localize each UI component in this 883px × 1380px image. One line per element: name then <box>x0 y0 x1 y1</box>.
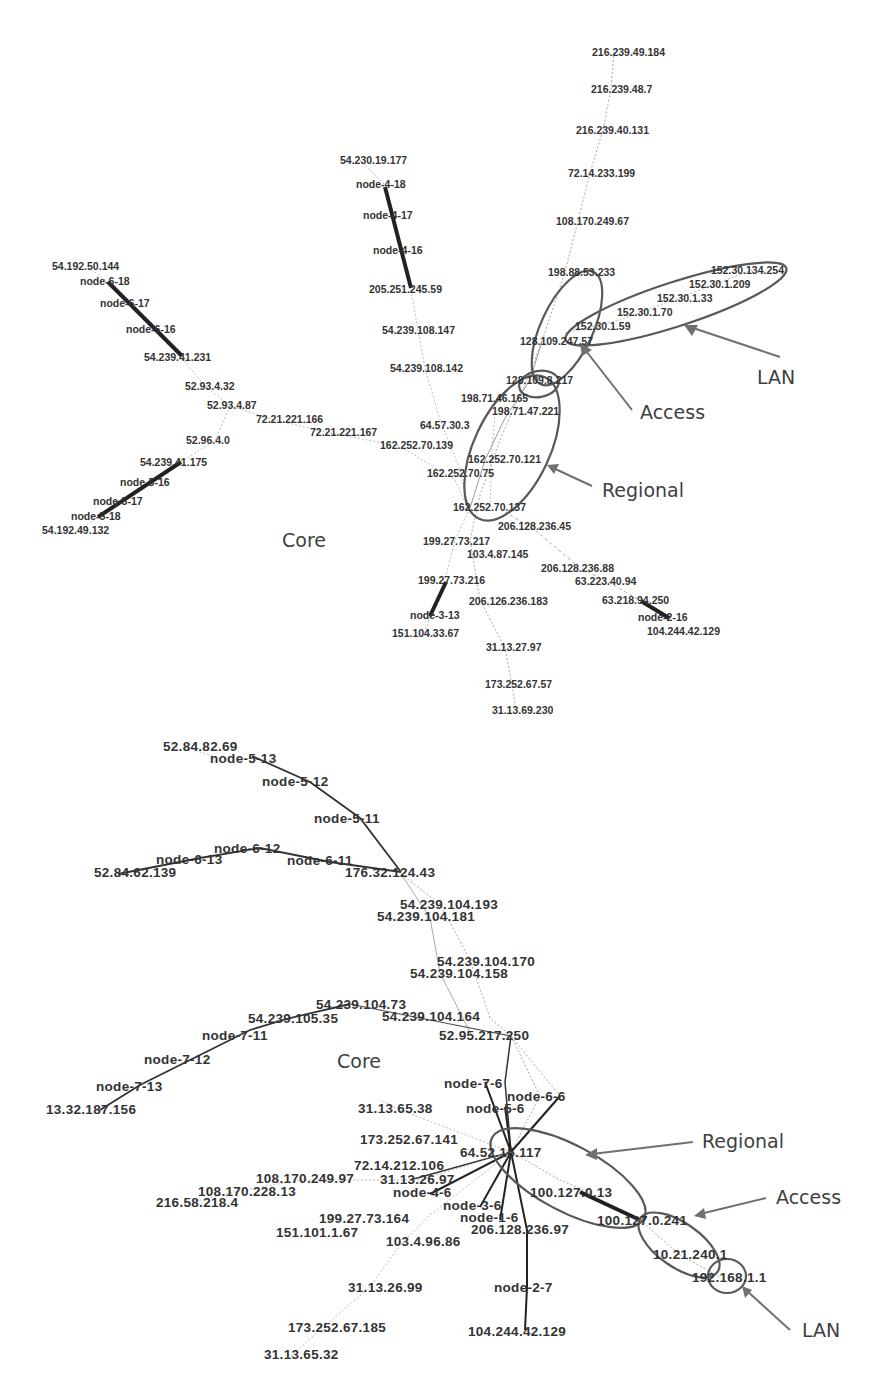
node-label: 198.71.47.221 <box>492 405 559 417</box>
node-label: 216.58.218.4 <box>156 1195 239 1210</box>
node-label: 199.27.73.216 <box>418 574 485 586</box>
node-label: 63.218.94.250 <box>602 594 669 606</box>
node-label: 54.239.105.35 <box>248 1011 338 1026</box>
node-label: 63.223.40.94 <box>575 575 636 587</box>
node-label: node-2-7 <box>494 1280 553 1295</box>
node-label: 31.13.69.230 <box>492 704 553 716</box>
node-label: 13.32.187.156 <box>46 1102 136 1117</box>
node-label: node-5-12 <box>262 774 328 789</box>
node-label: node-6-11 <box>287 853 353 868</box>
node-label: 216.239.40.131 <box>576 124 649 136</box>
node-label: 104.244.42.129 <box>647 625 720 637</box>
node-label: 151.104.33.67 <box>392 627 459 639</box>
node-label: node-4-17 <box>363 209 413 221</box>
node-label: node-7-6 <box>444 1076 503 1091</box>
node-label: 54.239.108.147 <box>382 324 455 336</box>
top-graph-labels: 216.239.49.184216.239.48.7216.239.40.131… <box>42 46 784 716</box>
node-label: 152.30.134.254 <box>711 264 784 276</box>
node-label: 151.101.1.67 <box>276 1225 358 1240</box>
node-label: 52.84.62.139 <box>94 865 176 880</box>
node-label: 128.109.247.57 <box>520 335 593 347</box>
node-label: 31.13.65.32 <box>264 1347 339 1362</box>
node-label: node-5-13 <box>210 751 277 766</box>
node-label: 52.96.4.0 <box>186 434 230 446</box>
node-label: node-5-11 <box>314 811 380 826</box>
node-label: 103.4.96.86 <box>386 1234 461 1249</box>
node-label: 54.239.41.231 <box>144 351 211 363</box>
node-label: node-7-13 <box>96 1079 163 1094</box>
tier-annotation: Regional <box>602 479 684 501</box>
node-label: node-6-17 <box>100 297 150 309</box>
network-topology-diagram: 216.239.49.184216.239.48.7216.239.40.131… <box>0 0 883 1380</box>
node-label: 216.239.49.184 <box>592 46 665 58</box>
node-label: node-6-12 <box>214 841 280 856</box>
tier-annotation: Regional <box>702 1130 784 1152</box>
tier-annotation: Access <box>776 1186 841 1208</box>
node-label: 52.95.217.250 <box>439 1028 529 1043</box>
node-label: 72.14.212.106 <box>354 1158 444 1173</box>
node-label: node-7-12 <box>144 1052 210 1067</box>
node-label: node-4-18 <box>356 178 406 190</box>
node-label: 54.239.104.158 <box>410 966 508 981</box>
node-label: 100.127.0.13 <box>530 1185 613 1200</box>
node-label: 173.252.67.141 <box>360 1132 458 1147</box>
node-label: 54.239.41.175 <box>140 456 207 468</box>
node-label: 54.192.49.132 <box>42 524 109 536</box>
node-label: 192.168.1.1 <box>692 1270 767 1285</box>
node-label: 72.14.233.199 <box>568 167 635 179</box>
bottom-graph-labels: 52.84.82.69node-5-13node-5-12node-5-11no… <box>46 739 767 1362</box>
node-label: 152.30.1.209 <box>689 278 750 290</box>
node-label: 31.13.27.97 <box>486 641 542 653</box>
node-label: 31.13.65.38 <box>358 1101 433 1116</box>
node-label: node-6-16 <box>126 323 176 335</box>
node-label: 64.57.30.3 <box>420 419 470 431</box>
node-label: 52.93.4.87 <box>207 399 257 411</box>
tier-annotation: Access <box>640 401 705 423</box>
node-label: 206.126.236.183 <box>469 595 548 607</box>
node-label: 152.30.1.33 <box>657 292 713 304</box>
tier-annotation: LAN <box>757 366 795 388</box>
tier-annotation: Core <box>337 1050 381 1072</box>
node-label: node-5-18 <box>71 510 121 522</box>
node-label: 152.30.1.70 <box>617 306 673 318</box>
node-label: 173.252.67.185 <box>288 1320 386 1335</box>
node-label: 108.170.249.67 <box>556 215 629 227</box>
node-label: 206.128.236.45 <box>498 520 571 532</box>
node-label: 162.252.70.139 <box>380 439 453 451</box>
node-label: 152.30.1.59 <box>575 320 631 332</box>
node-label: 103.4.87.145 <box>467 548 528 560</box>
node-label: 100.127.0.241 <box>597 1213 687 1228</box>
node-label: node-5-17 <box>93 495 143 507</box>
node-label: node-2-16 <box>638 611 688 623</box>
tier-annotation: LAN <box>802 1319 840 1341</box>
node-label: 162.252.70.137 <box>453 501 526 513</box>
node-label: node-6-18 <box>80 275 130 287</box>
node-label: 216.239.48.7 <box>591 83 652 95</box>
node-label: node-4-16 <box>373 244 423 256</box>
node-label: 64.52.15.117 <box>460 1145 542 1160</box>
node-label: node-5-6 <box>466 1101 525 1116</box>
node-label: 10.21.240.1 <box>653 1247 728 1262</box>
node-label: node-7-11 <box>202 1028 268 1043</box>
node-label: 128.109.8.217 <box>506 374 573 386</box>
node-label: 54.239.108.142 <box>390 362 463 374</box>
node-label: 206.128.236.97 <box>471 1222 569 1237</box>
node-label: 198.88.53.233 <box>548 266 615 278</box>
node-label: node-3-13 <box>410 609 460 621</box>
node-label: 52.93.4.32 <box>185 380 235 392</box>
node-label: 206.128.236.88 <box>541 562 614 574</box>
node-label: 104.244.42.129 <box>468 1324 566 1339</box>
node-label: 72.21.221.166 <box>256 413 323 425</box>
node-label: 173.252.67.57 <box>485 678 552 690</box>
node-label: 31.13.26.99 <box>348 1280 423 1295</box>
node-label: 176.32.124.43 <box>345 865 435 880</box>
node-label: 199.27.73.164 <box>319 1211 409 1226</box>
node-label: node-5-16 <box>120 476 170 488</box>
node-label: 162.252.70.75 <box>427 467 494 479</box>
node-label: 72.21.221.167 <box>310 426 377 438</box>
node-label: 54.230.19.177 <box>340 154 407 166</box>
node-label: 54.239.104.181 <box>377 909 475 924</box>
node-label: 199.27.73.217 <box>423 535 490 547</box>
node-label: 162.252.70.121 <box>468 453 541 465</box>
node-label: 54.192.50.144 <box>52 260 119 272</box>
